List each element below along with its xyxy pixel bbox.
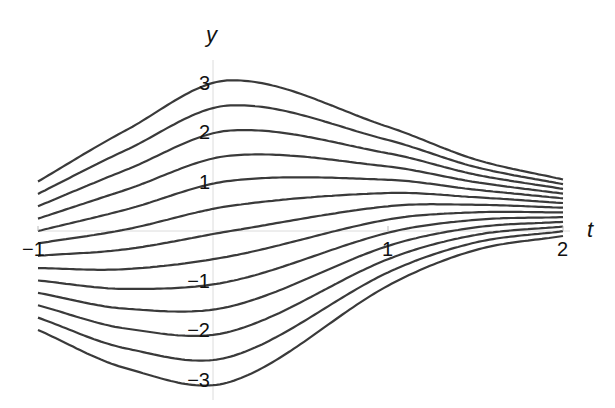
y-tick-label: −2 <box>187 319 210 341</box>
solution-curve <box>38 154 563 218</box>
x-tick-label: −1 <box>22 238 45 260</box>
solution-curve <box>38 236 563 386</box>
solution-curve <box>38 80 563 181</box>
x-axis-label: t <box>587 217 594 242</box>
y-tick-label: −1 <box>187 270 210 292</box>
solution-curve <box>38 105 563 194</box>
x-tick-label: 2 <box>557 238 568 260</box>
y-tick-label: 1 <box>199 171 210 193</box>
y-axis-label: y <box>204 22 219 47</box>
y-tick-label: 2 <box>199 121 210 143</box>
y-tick-label: 3 <box>199 72 210 94</box>
solution-curves-plot: −112321−1−2−3 y t <box>0 0 615 408</box>
y-tick-label: −3 <box>187 369 210 391</box>
solution-curve <box>38 222 563 312</box>
solution-curves <box>38 80 563 385</box>
x-tick-label: 1 <box>382 238 393 260</box>
solution-curve <box>38 217 563 289</box>
